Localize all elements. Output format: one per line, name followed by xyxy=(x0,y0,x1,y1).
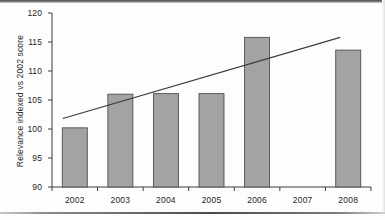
chart-container: Relevance indexed vs 2002 score 90951001… xyxy=(0,0,385,220)
bar xyxy=(245,37,270,187)
bar xyxy=(153,94,178,187)
plot-area xyxy=(0,0,385,220)
bar xyxy=(336,50,361,187)
x-axis-ticks xyxy=(52,187,371,191)
bar xyxy=(108,94,133,187)
bar xyxy=(62,128,87,187)
y-axis-ticks xyxy=(48,13,52,187)
bar-group xyxy=(62,37,360,187)
bar xyxy=(199,94,224,187)
